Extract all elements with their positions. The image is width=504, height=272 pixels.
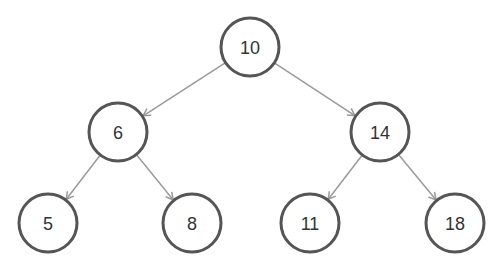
edge-arrow-6-to-8 [137, 155, 173, 199]
binary-tree-diagram: 10614581118 [0, 0, 504, 272]
tree-node-5: 5 [19, 194, 77, 252]
edge-arrow-10-to-14 [275, 63, 355, 115]
nodes-layer: 10614581118 [19, 18, 484, 252]
node-label: 5 [43, 214, 53, 234]
edge-arrow-14-to-18 [399, 155, 436, 200]
tree-node-14: 14 [351, 103, 409, 161]
node-label: 10 [240, 38, 260, 58]
tree-node-10: 10 [221, 18, 279, 76]
edge-arrow-6-to-5 [66, 156, 99, 199]
edge-arrow-10-to-6 [143, 63, 225, 116]
tree-node-8: 8 [163, 194, 221, 252]
node-label: 18 [445, 214, 465, 234]
node-label: 14 [370, 123, 390, 143]
tree-node-11: 11 [281, 194, 339, 252]
node-label: 6 [113, 123, 123, 143]
edge-arrow-14-to-11 [328, 156, 361, 199]
node-label: 8 [187, 214, 197, 234]
tree-node-6: 6 [89, 103, 147, 161]
tree-node-18: 18 [426, 194, 484, 252]
node-label: 11 [301, 214, 320, 234]
